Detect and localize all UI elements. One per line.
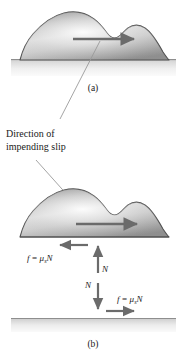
friction-label-on-surface: f=μsN bbox=[117, 294, 144, 305]
friction-label-on-block: f=μsN bbox=[27, 253, 54, 264]
ground-surface-a bbox=[11, 59, 176, 76]
block-body-a bbox=[20, 12, 169, 60]
normal-label-on-surface: N bbox=[84, 280, 92, 290]
normal-label-on-block: N bbox=[101, 264, 109, 274]
panel-b-group: f=μsN N N f=μsN bbox=[11, 189, 176, 350]
ground-surface-b bbox=[11, 318, 176, 332]
panel-caption-a: (a) bbox=[88, 83, 99, 94]
panel-caption-b: (b) bbox=[87, 339, 98, 350]
direction-label-line-1: Direction of bbox=[6, 128, 55, 139]
direction-label-line-2: impending slip bbox=[6, 141, 66, 152]
figure-canvas: (a) Direction of impending slip bbox=[0, 0, 187, 354]
friction-figure: (a) Direction of impending slip bbox=[0, 0, 187, 354]
block-body-b bbox=[20, 189, 169, 237]
